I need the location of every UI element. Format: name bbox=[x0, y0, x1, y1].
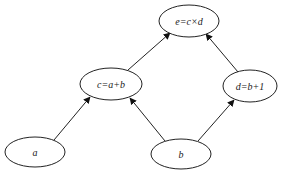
edge-b-to-c bbox=[130, 98, 165, 141]
node-d: d=b+1 bbox=[223, 70, 277, 102]
node-a: a bbox=[5, 137, 65, 167]
node-e-label: e=c×d bbox=[175, 16, 203, 27]
node-a-label: a bbox=[33, 147, 38, 158]
computation-graph: e=c×d c=a+b d=b+1 a b bbox=[0, 0, 289, 173]
node-e: e=c×d bbox=[159, 5, 219, 37]
node-b-label: b bbox=[179, 149, 184, 160]
edge-b-to-d bbox=[198, 100, 234, 141]
node-b: b bbox=[151, 139, 211, 169]
edge-a-to-c bbox=[54, 97, 90, 140]
node-d-label: d=b+1 bbox=[236, 81, 265, 92]
edge-c-to-e bbox=[128, 33, 170, 70]
node-c-label: c=a+b bbox=[97, 79, 125, 90]
edge-d-to-e bbox=[206, 34, 238, 72]
node-c: c=a+b bbox=[80, 68, 142, 100]
